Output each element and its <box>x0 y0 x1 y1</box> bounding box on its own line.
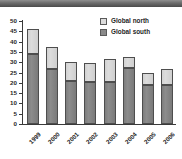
y-tick <box>19 103 22 104</box>
y-tick-label: 45 <box>10 28 17 34</box>
x-tick-label: 2000 <box>47 131 61 145</box>
bar-segment-global-south[interactable] <box>27 54 39 124</box>
y-tick-label: 50 <box>10 18 17 24</box>
y-tick <box>19 31 22 32</box>
x-tick-label: 2006 <box>162 131 176 145</box>
y-tick <box>19 83 22 84</box>
top-banner <box>0 0 182 7</box>
bar-segment-global-north[interactable] <box>123 57 135 68</box>
bar-segment-global-north[interactable] <box>161 69 173 84</box>
legend-swatch-south-icon <box>100 29 107 36</box>
x-tick-label: 2001 <box>66 131 80 145</box>
x-tick-label: 2005 <box>143 131 157 145</box>
y-tick <box>19 73 22 74</box>
bar-stack[interactable] <box>123 57 135 124</box>
legend-swatch-north-icon <box>100 18 107 25</box>
bar-segment-global-south[interactable] <box>65 81 77 124</box>
bar-segment-global-south[interactable] <box>161 85 173 124</box>
y-tick-label: 25 <box>10 70 17 76</box>
y-tick <box>19 124 22 125</box>
y-tick-label: 5 <box>14 111 17 117</box>
y-tick <box>19 62 22 63</box>
bar-stack[interactable] <box>142 73 154 125</box>
bar-stack[interactable] <box>27 29 39 124</box>
bar-segment-global-north[interactable] <box>142 73 154 85</box>
y-tick-label: 30 <box>10 59 17 65</box>
bar-stack[interactable] <box>84 63 96 124</box>
y-tick <box>19 52 22 53</box>
y-tick <box>19 93 22 94</box>
bar-segment-global-south[interactable] <box>142 85 154 124</box>
legend-item-global-north: Global north <box>100 17 178 26</box>
bar-segment-global-north[interactable] <box>46 47 58 70</box>
bar-stack[interactable] <box>46 47 58 124</box>
bar-segment-global-north[interactable] <box>104 59 116 82</box>
bar-segment-global-north[interactable] <box>27 29 39 54</box>
bar-segment-global-south[interactable] <box>123 68 135 124</box>
y-tick <box>19 42 22 43</box>
x-tick-label: 1999 <box>28 131 42 145</box>
bar-stack[interactable] <box>104 59 116 124</box>
bar-stack[interactable] <box>161 69 173 124</box>
x-tick-label: 2004 <box>124 131 138 145</box>
y-tick-label: 10 <box>10 100 17 106</box>
y-tick-label: 40 <box>10 39 17 45</box>
legend-item-global-south: Global south <box>100 28 178 37</box>
legend-label-north: Global north <box>111 18 149 24</box>
y-tick <box>19 114 22 115</box>
bar-segment-global-south[interactable] <box>104 82 116 124</box>
y-tick <box>19 21 22 22</box>
y-tick-label: 20 <box>10 80 17 86</box>
bar-segment-global-north[interactable] <box>84 63 96 82</box>
bar-segment-global-north[interactable] <box>65 62 77 81</box>
chart-legend: Global north Global south <box>100 17 178 39</box>
x-axis <box>22 124 176 125</box>
x-tick-label: 2003 <box>105 131 119 145</box>
stacked-bar-chart: 05101520253035404550 1999200020012002200… <box>0 7 182 159</box>
bar-stack[interactable] <box>65 62 77 124</box>
y-tick-label: 0 <box>14 121 17 127</box>
legend-label-south: Global south <box>111 29 150 35</box>
y-tick-label: 15 <box>10 90 17 96</box>
bar-segment-global-south[interactable] <box>46 69 58 124</box>
y-tick-label: 35 <box>10 49 17 55</box>
x-tick-label: 2002 <box>85 131 99 145</box>
bar-segment-global-south[interactable] <box>84 82 96 124</box>
